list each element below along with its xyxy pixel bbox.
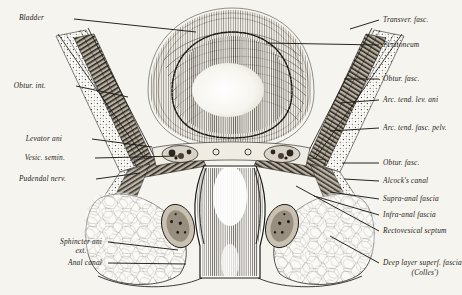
label-anal-canal: Anal canal xyxy=(68,259,102,268)
label-colles-fascia-2: (Colles') xyxy=(411,269,438,278)
anal-canal-organ xyxy=(190,160,270,285)
label-infra-anal-fascia: Infra-anal fascia xyxy=(383,211,436,220)
label-levator-ani: Levator ani xyxy=(26,135,62,144)
label-colles-fascia: Deep layer superf. fascia xyxy=(383,259,462,268)
label-supra-anal-fascia: Supra-anal fascia xyxy=(383,195,439,204)
label-obtur-fasc-lower: Obtur. fasc. xyxy=(383,159,419,168)
label-vesic-semin: Vesic. semin. xyxy=(25,154,65,163)
label-alcocks-canal: Alcock's canal xyxy=(383,177,428,186)
label-arc-tend-fasc-pelv: Arc. tend. fasc. pelv. xyxy=(383,124,447,133)
label-arc-tend-lev-ani: Arc. tend. lev. ani xyxy=(383,96,438,105)
label-obtur-fasc-upper: Obtur. fasc. xyxy=(383,75,419,84)
label-pudendal-nerv: Pudendal nerv. xyxy=(19,175,66,184)
right-vesicle-cluster xyxy=(264,146,300,163)
label-peritoneum: Peritoneum xyxy=(383,41,419,50)
label-transver-fasc: Transver. fasc. xyxy=(383,16,429,25)
left-vesicle-cluster xyxy=(162,146,198,163)
label-bladder: Bladder xyxy=(19,14,44,23)
label-rectovesical-septum: Rectovesical septum xyxy=(383,227,447,236)
label-sphincter-ani-2: ext. xyxy=(75,247,86,256)
bladder-lumen xyxy=(192,63,264,117)
label-obtur-int: Obtur. int. xyxy=(14,82,46,91)
